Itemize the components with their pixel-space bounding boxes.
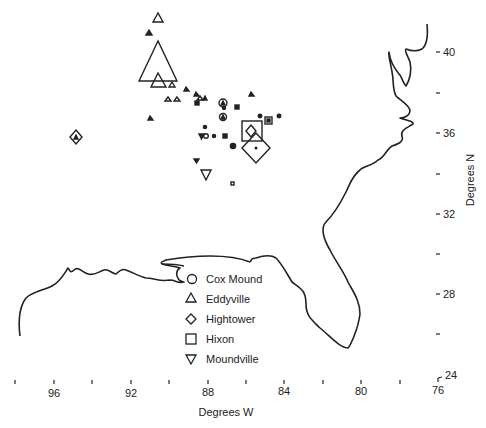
eddyville-marker bbox=[184, 87, 189, 91]
eddyville-marker bbox=[151, 73, 166, 87]
y-tick-label: 32 bbox=[443, 208, 455, 220]
diamond-icon bbox=[186, 314, 196, 324]
y-tick-label: 36 bbox=[443, 127, 455, 139]
eddyville-marker bbox=[153, 13, 163, 22]
eddyville-marker bbox=[203, 96, 207, 100]
eddyville-marker bbox=[221, 115, 225, 119]
x-tick-label: 84 bbox=[278, 385, 290, 397]
map-scatter-chart: 96 92 88 84 80 76 Degrees W 40 36 32 28 … bbox=[0, 0, 486, 428]
hixon-marker bbox=[231, 182, 234, 185]
y-axis-ticks bbox=[436, 52, 440, 334]
hixon-marker bbox=[235, 105, 239, 109]
eddyville-marker bbox=[249, 92, 254, 96]
eddyville-marker bbox=[148, 116, 153, 120]
y-tick-label: 24 bbox=[445, 369, 457, 381]
moundville-companion bbox=[204, 134, 209, 139]
legend-item-moundville: Moundville bbox=[186, 353, 259, 365]
moundville-marker bbox=[194, 159, 199, 163]
legend-label: Eddyville bbox=[206, 293, 250, 305]
eddyville-marker bbox=[74, 135, 78, 139]
cox-mound-marker bbox=[212, 134, 215, 137]
cox-mound-marker bbox=[230, 143, 235, 148]
circle-icon bbox=[188, 275, 197, 284]
eddyville-marker bbox=[139, 41, 177, 81]
eddyville-marker bbox=[221, 101, 225, 105]
x-tick-label: 92 bbox=[125, 387, 137, 399]
y-tick-label: 28 bbox=[443, 288, 455, 300]
hightower-center bbox=[255, 147, 257, 149]
extra-dot bbox=[258, 114, 262, 118]
site-markers bbox=[70, 13, 281, 185]
eddyville-marker bbox=[169, 82, 175, 87]
hixon-marker bbox=[223, 134, 227, 138]
legend-label: Moundville bbox=[206, 353, 259, 365]
y-tick-label: 40 bbox=[443, 46, 455, 58]
x-tick-label: 76 bbox=[432, 384, 444, 396]
legend-label: Cox Mound bbox=[206, 273, 262, 285]
eddyville-marker bbox=[194, 92, 199, 96]
cox-mound-marker bbox=[223, 107, 226, 110]
moundville-marker bbox=[201, 170, 211, 180]
cox-mound-marker bbox=[203, 125, 206, 128]
extra-dot bbox=[277, 114, 281, 118]
eddyville-marker bbox=[165, 97, 171, 101]
x-tick-label: 96 bbox=[48, 387, 60, 399]
square-icon bbox=[186, 334, 196, 344]
hixon-marker bbox=[195, 101, 199, 105]
triangle-up-icon bbox=[186, 293, 196, 302]
x-tick-label: 80 bbox=[355, 385, 367, 397]
legend-item-eddyville: Eddyville bbox=[186, 293, 250, 305]
x-axis-ticks bbox=[15, 377, 442, 384]
atlantic-coastline bbox=[250, 24, 427, 348]
legend: Cox Mound Eddyville Hightower Hixon Moun… bbox=[186, 273, 262, 365]
y-axis-title: Degrees N bbox=[464, 154, 476, 207]
legend-item-hixon: Hixon bbox=[186, 333, 234, 345]
legend-item-cox-mound: Cox Mound bbox=[188, 273, 263, 285]
hixon-marker bbox=[267, 119, 270, 122]
x-axis-title: Degrees W bbox=[198, 406, 254, 418]
legend-item-hightower: Hightower bbox=[186, 313, 256, 325]
eddyville-marker bbox=[174, 97, 180, 101]
x-tick-label: 88 bbox=[202, 386, 214, 398]
eddyville-marker bbox=[146, 30, 152, 35]
triangle-down-icon bbox=[186, 355, 196, 364]
legend-label: Hixon bbox=[206, 333, 234, 345]
legend-label: Hightower bbox=[206, 313, 256, 325]
